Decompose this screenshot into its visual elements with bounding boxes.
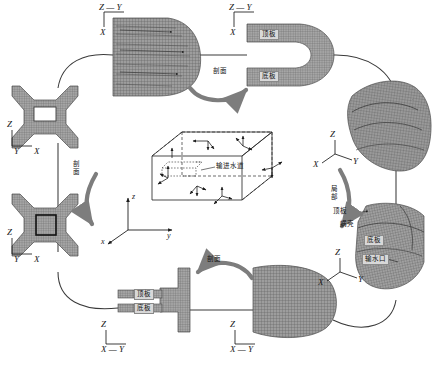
center-boundary-box [108, 132, 282, 244]
view-right-upper-mesh [348, 81, 431, 171]
label-spiral-casing-3d: 蜗壳 [340, 221, 354, 228]
label-bottom-plate-3d: 底板 [364, 235, 384, 246]
axis-label-center-z: z [132, 193, 135, 201]
process-label-bottom-section: 剖面 [207, 256, 221, 263]
axis-label-top-left-zy: Z — Y [99, 3, 122, 12]
axis-label-bottom-left-z: Z [101, 320, 106, 329]
process-label-right-local: 局部 [329, 185, 336, 201]
connector-topleft-to-left [58, 54, 113, 88]
axis-label-left-lower-z: Z [7, 228, 12, 237]
axis-label-top-right-zy: Z — Y [229, 3, 252, 12]
axis-label-top-right-x: X [230, 28, 236, 37]
axis-label-left-lower-x: X [34, 255, 40, 264]
axis-label-left-upper-y: Y [14, 147, 19, 156]
arrow-left-section [86, 174, 96, 224]
axis-label-left-upper-z: Z [7, 120, 12, 129]
label-inlet-water-passage: 输进水道 [216, 163, 244, 170]
axis-label-right-lower-z: Z [335, 248, 340, 257]
axis-label-center-y: y [167, 232, 171, 240]
label-water-passage-3d: 输水口 [362, 254, 389, 265]
label-top-plate-3d: 顶板 [333, 208, 347, 215]
diagram-vector-layer [0, 0, 437, 366]
axis-label-bottom-left-xy: X — Y [101, 345, 124, 354]
process-arrows [86, 88, 349, 278]
view-left-lower-mesh [12, 194, 78, 256]
arrow-top-section [190, 88, 246, 100]
label-top-plate-u-channel: 顶板 [259, 29, 279, 40]
process-label-top-section: 剖面 [213, 68, 227, 75]
axis-label-right-upper-y: Y [353, 157, 358, 166]
view-top-left-mesh [113, 18, 201, 96]
axis-label-right-upper-x: X [313, 160, 319, 169]
axis-label-right-lower-x: X [318, 278, 324, 287]
axis-label-bottom-right-xy: X — Y [230, 345, 253, 354]
axis-label-top-left-x: X [100, 28, 106, 37]
axis-label-left-upper-x: X [34, 147, 40, 156]
arrow-right-local [340, 170, 349, 226]
axis-label-center-x: x [101, 238, 105, 246]
label-bottom-plate-t-section: 底板 [134, 303, 154, 314]
figure-canvas: Z — Y X Z — Y X Z X Y Z X Y Z X — Y Z X … [0, 0, 437, 366]
axis-label-right-lower-y: Y [358, 275, 363, 284]
connector-right-to-bottom [333, 300, 396, 327]
process-label-left-section: 剖面 [71, 160, 78, 176]
label-bottom-plate-u-channel: 底板 [259, 71, 279, 82]
axis-label-bottom-right-z: Z [230, 320, 235, 329]
label-top-plate-t-section: 顶板 [134, 289, 154, 300]
connector-bottom-to-left [58, 272, 118, 309]
axis-label-right-upper-z: Z [330, 130, 335, 139]
flow-connector-ring [58, 54, 396, 327]
view-bottom-left-mesh [118, 268, 190, 332]
view-right-lower-mesh [356, 203, 424, 289]
arrow-bottom-section [198, 263, 252, 278]
view-left-upper-mesh [12, 86, 78, 148]
axis-label-left-lower-y: Y [14, 255, 19, 264]
